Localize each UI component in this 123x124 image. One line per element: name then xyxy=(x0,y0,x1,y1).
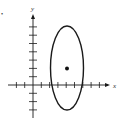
x-axis-label: x xyxy=(112,82,117,90)
y-axis-label: y xyxy=(30,5,35,13)
marker-dot: • xyxy=(1,11,3,17)
diagram-canvas: • x y xyxy=(0,0,123,124)
x-axis-arrow-icon xyxy=(105,83,110,87)
center-point xyxy=(65,67,69,71)
y-axis-arrow-icon xyxy=(31,14,35,19)
